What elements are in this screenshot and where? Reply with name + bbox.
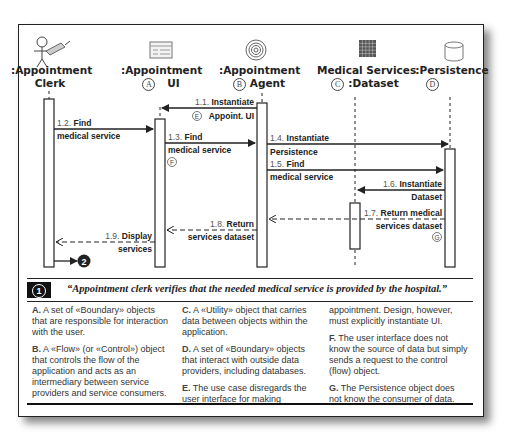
boundary-form-icon xyxy=(150,42,172,58)
diagram-page: 1.1. Instantiate Appoint. UI E 1.2. Find… xyxy=(18,24,484,417)
object-appointment-agent: :Appointment BAgent xyxy=(219,64,299,91)
note-e-part1: E. The use case disregards the user inte… xyxy=(182,383,322,405)
svg-text:1.4. Instantiate: 1.4. Instantiate xyxy=(270,133,329,143)
spiral-control-icon xyxy=(246,40,266,60)
svg-text:medical service: medical service xyxy=(168,145,232,155)
svg-text:1.9. Display: 1.9. Display xyxy=(105,231,152,241)
svg-text:F: F xyxy=(170,159,174,166)
note-c: C. A «Utility» object that carries data … xyxy=(182,305,322,338)
message-1-4: 1.4. Instantiate Persistence xyxy=(267,133,448,157)
svg-text:Appoint. UI: Appoint. UI xyxy=(209,111,254,121)
svg-text:E: E xyxy=(195,113,200,120)
step-number-badge: 1 xyxy=(27,282,51,298)
notes-column-2: C. A «Utility» object that carries data … xyxy=(182,305,322,411)
activation-persistence xyxy=(445,149,455,267)
svg-text:Dataset: Dataset xyxy=(411,192,442,202)
note-e-part2: appointment. Design, however, must expli… xyxy=(329,305,469,327)
message-1-6: 1.6. Instantiate Dataset xyxy=(358,179,445,202)
note-a: A. A set of «Boundary» objects that are … xyxy=(32,305,172,338)
svg-text:1.6. Instantiate: 1.6. Instantiate xyxy=(383,179,442,189)
marker-c: C xyxy=(331,78,344,91)
marker-b: B xyxy=(233,78,246,91)
svg-text:1.3. Find: 1.3. Find xyxy=(168,132,203,142)
svg-text:medical service: medical service xyxy=(270,172,334,182)
object-persistence: :Persistence D xyxy=(414,64,490,91)
svg-text:medical service: medical service xyxy=(57,131,121,141)
activation-dataset xyxy=(350,203,360,249)
actor-with-pencil-icon xyxy=(34,37,70,67)
svg-text:services: services xyxy=(118,244,152,254)
object-appointment-ui: :Appointment AUI xyxy=(121,64,201,91)
next-step-arrow: 2 xyxy=(54,255,91,268)
message-1-9: 1.9. Display services xyxy=(56,231,155,254)
database-cylinder-icon xyxy=(445,42,463,61)
next-step-badge: 2 xyxy=(81,257,86,267)
svg-text:services dataset: services dataset xyxy=(376,221,442,231)
message-1-1: 1.1. Instantiate Appoint. UI E xyxy=(162,97,257,121)
activation-agent xyxy=(257,103,267,267)
note-g: G. The Persistence object does not know … xyxy=(329,383,469,405)
message-1-3: 1.3. Find medical service F xyxy=(165,132,255,167)
object-medical-services-dataset: Medical Services C:Dataset xyxy=(317,64,413,91)
notes-column-3: appointment. Design, however, must expli… xyxy=(329,305,469,411)
svg-text:1.5. Find: 1.5. Find xyxy=(270,159,305,169)
svg-text:1.7. Return medical: 1.7. Return medical xyxy=(364,208,442,218)
object-appointment-clerk: :Appointment Clerk xyxy=(11,64,89,90)
svg-text:1.2. Find: 1.2. Find xyxy=(57,118,92,128)
svg-text:Persistence: Persistence xyxy=(270,147,318,157)
note-b: B. A «Flow» (or «Control») object that c… xyxy=(32,344,172,399)
message-1-8: 1.8. Return services dataset xyxy=(167,219,257,242)
message-1-2: 1.2. Find medical service xyxy=(54,118,153,141)
svg-text:G: G xyxy=(434,234,439,241)
note-f: F. The user interface does not know the … xyxy=(329,333,469,377)
grid-utility-icon xyxy=(359,40,376,57)
step-quote-text: “Appointment clerk verifies that the nee… xyxy=(67,283,447,294)
note-d: D. A set of «Boundary» objects that inte… xyxy=(182,344,322,377)
marker-a: A xyxy=(142,78,155,91)
svg-text:services dataset: services dataset xyxy=(188,232,254,242)
marker-d: D xyxy=(426,78,439,91)
notes-column-1: A. A set of «Boundary» objects that are … xyxy=(32,305,172,405)
bottom-rule xyxy=(27,403,473,405)
svg-text:1.1. Instantiate: 1.1. Instantiate xyxy=(195,97,254,107)
activation-ui xyxy=(155,119,165,267)
step-quote-bar: 1 “Appointment clerk verifies that the n… xyxy=(27,278,473,302)
activation-clerk xyxy=(44,99,54,267)
svg-text:1.8. Return: 1.8. Return xyxy=(210,219,254,229)
